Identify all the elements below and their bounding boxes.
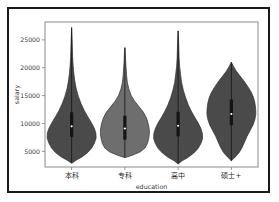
x-tick-label-1: 本科 bbox=[65, 171, 79, 180]
y-tick-label: 5000 bbox=[24, 148, 40, 155]
iqr-box bbox=[177, 112, 180, 137]
median-marker bbox=[230, 113, 232, 115]
x-tick-label-2: 专科 bbox=[118, 171, 132, 180]
x-tick-label-4: 硕士+ bbox=[221, 171, 241, 180]
median-marker bbox=[124, 127, 126, 129]
y-tick-label: 25000 bbox=[20, 36, 40, 43]
y-tick-label: 15000 bbox=[20, 92, 40, 99]
median-marker bbox=[177, 125, 179, 127]
y-axis-title: salary bbox=[13, 85, 21, 105]
violin-plot: 500010000150002000025000本科专科高中硕士+ salary… bbox=[9, 9, 268, 191]
iqr-box bbox=[230, 100, 233, 126]
figure-frame: 500010000150002000025000本科专科高中硕士+ salary… bbox=[7, 7, 270, 193]
median-marker bbox=[71, 125, 73, 127]
y-tick-label: 20000 bbox=[20, 64, 40, 71]
iqr-box bbox=[70, 112, 73, 137]
y-tick-label: 10000 bbox=[20, 120, 40, 127]
x-tick-label-3: 高中 bbox=[171, 171, 185, 180]
x-axis-title: education bbox=[136, 183, 168, 191]
